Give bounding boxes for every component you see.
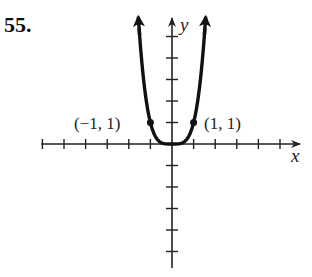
x-axis-label: x [290,145,300,166]
curve-arrow-right [204,17,205,35]
curve-arrow-left [138,17,139,35]
point-neg1-1 [147,119,154,126]
point-1-1 [190,119,197,126]
point-label-left: (−1, 1) [74,114,120,133]
y-axis-label: y [178,14,189,35]
point-label-right: (1, 1) [204,114,241,133]
graph: x y (−1, 1) (1, 1) [0,0,312,277]
